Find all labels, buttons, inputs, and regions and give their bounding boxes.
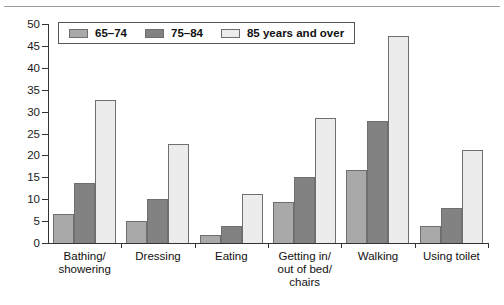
x-axis-separator-tick [121, 243, 122, 248]
y-axis-tick-label: 15 [27, 171, 40, 183]
y-axis-tick-label: 30 [27, 106, 40, 118]
bar [441, 208, 462, 243]
y-axis-tick-label: 20 [27, 149, 40, 161]
bar [346, 170, 367, 243]
y-axis-labels: 05101520253035404550 [0, 0, 40, 305]
x-axis-category-label: Using toilet [409, 250, 494, 263]
bar [294, 177, 315, 243]
bar [53, 214, 74, 243]
bar-group-bars [195, 24, 268, 243]
x-axis-separator-tick [488, 243, 489, 248]
y-axis-tick-label: 5 [34, 215, 40, 227]
bar-group [341, 24, 414, 243]
bar [74, 183, 95, 243]
y-axis-tick-label: 25 [27, 128, 40, 140]
top-divider-rule [4, 6, 500, 7]
x-axis-separator-tick [415, 243, 416, 248]
y-axis-tick-label: 35 [27, 84, 40, 96]
x-axis-separator-tick [341, 243, 342, 248]
bar [147, 199, 168, 243]
bar-group-bars [121, 24, 194, 243]
bar-group [121, 24, 194, 243]
bar [367, 121, 388, 243]
bar-group-bars [415, 24, 488, 243]
bar-group-bars [48, 24, 121, 243]
bar [126, 221, 147, 243]
bar [95, 100, 116, 243]
bar [242, 194, 263, 243]
bar-group [415, 24, 488, 243]
bar [168, 144, 189, 243]
bar [462, 150, 483, 243]
bar-group-bars [341, 24, 414, 243]
bar-group [195, 24, 268, 243]
bar-group [268, 24, 341, 243]
bar-group-bars [268, 24, 341, 243]
y-axis-tick [42, 243, 48, 244]
bar [221, 226, 242, 243]
x-axis-separator-tick [268, 243, 269, 248]
bar [200, 235, 221, 243]
bar [388, 36, 409, 243]
bar [420, 226, 441, 243]
bar [273, 202, 294, 243]
x-axis-separator-tick [195, 243, 196, 248]
y-axis-tick-label: 45 [27, 40, 40, 52]
bar-chart: 05101520253035404550 65–74 75–84 85 year… [0, 0, 504, 305]
y-axis-tick-label: 40 [27, 62, 40, 74]
y-axis-tick-label: 10 [27, 193, 40, 205]
bar-group [48, 24, 121, 243]
y-axis-tick-label: 50 [27, 18, 40, 30]
y-axis-tick-label: 0 [34, 237, 40, 249]
bar [315, 118, 336, 243]
